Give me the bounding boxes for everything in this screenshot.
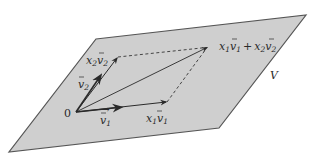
- plane-label: V: [270, 69, 279, 82]
- v1-vector-bar: →: [101, 103, 110, 116]
- origin-label: 0: [64, 107, 71, 120]
- plane-v: [9, 15, 306, 152]
- vector-plane-diagram: 0 v1 → x1v1 v2 x2v2 x1v1+x2v2 V: [0, 0, 314, 161]
